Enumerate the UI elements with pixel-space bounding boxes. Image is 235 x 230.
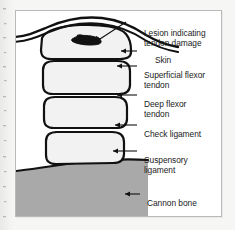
label-suspensory-ligament: Suspensory ligament (144, 156, 188, 175)
label-check-ligament: Check ligament (144, 130, 201, 140)
diagram-plate: Lesion indicating tendon damage Skin Sup… (15, 10, 222, 217)
label-deep-flexor-tendon: Deep flexor tendon (144, 100, 186, 119)
label-superficial-flexor-tendon: Superficial flexor tendon (144, 71, 205, 90)
label-cannon-bone: Cannon bone (147, 199, 197, 209)
check-ligament (44, 97, 127, 128)
suspensory-ligament (46, 132, 124, 164)
label-lesion: Lesion indicating tendon damage (144, 29, 206, 48)
label-skin: Skin (155, 56, 171, 66)
deep-flexor-tendon (43, 61, 130, 94)
cannon-bone (16, 159, 148, 216)
figure-root: Lesion indicating tendon damage Skin Sup… (0, 0, 235, 230)
scan-edge-artifacts (0, 0, 13, 230)
